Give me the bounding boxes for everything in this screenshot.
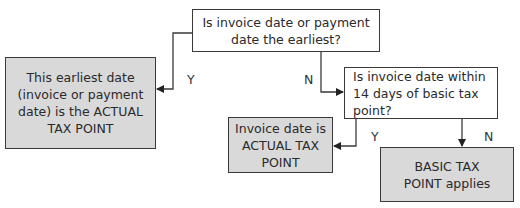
- edge-label-q1-yes: Y: [187, 72, 195, 87]
- edge-label-q2-no: N: [484, 129, 493, 144]
- outcome-c-text: BASIC TAX POINT applies: [395, 158, 499, 192]
- edge-label-q1-no: N: [304, 72, 313, 87]
- decision-q1-text: Is invoice date or payment date the earl…: [199, 14, 373, 48]
- decision-q2: Is invoice date within 14 days of basic …: [344, 67, 498, 119]
- edge-q1-to-q2: [321, 51, 343, 92]
- edge-q2-to-outcome-b: [334, 118, 356, 146]
- outcome-a-earliest-date: This earliest date (invoice or payment d…: [5, 57, 156, 149]
- outcome-a-text: This earliest date (invoice or payment d…: [16, 69, 145, 137]
- outcome-b-text: Invoice date is ACTUAL TAX POINT: [235, 120, 326, 171]
- outcome-b-invoice-date: Invoice date is ACTUAL TAX POINT: [228, 117, 333, 173]
- decision-q2-text: Is invoice date within 14 days of basic …: [353, 68, 489, 119]
- decision-q1: Is invoice date or payment date the earl…: [192, 9, 380, 52]
- outcome-c-basic-tax-point: BASIC TAX POINT applies: [380, 147, 514, 202]
- edge-label-q2-yes: Y: [371, 129, 379, 144]
